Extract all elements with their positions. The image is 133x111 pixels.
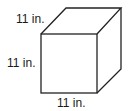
cube-front-face — [41, 34, 97, 93]
width-label: 11 in. — [57, 97, 85, 109]
depth-label: 11 in. — [16, 13, 44, 25]
height-label: 11 in. — [7, 57, 35, 69]
cube-top-face — [41, 8, 121, 34]
